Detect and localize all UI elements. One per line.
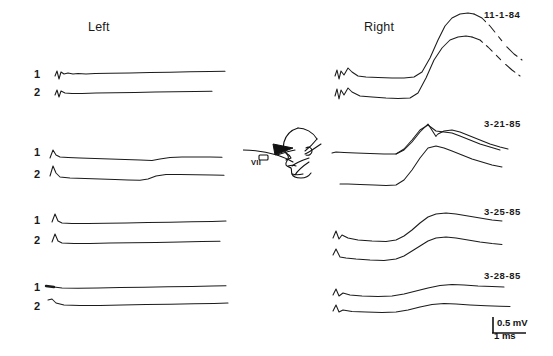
date-label-3: 3-25-85 — [484, 206, 521, 217]
trace-left-g4-t2 — [48, 299, 228, 306]
column-header-left: Left — [88, 20, 110, 34]
trace-left-g1-t1 — [55, 71, 225, 79]
trace-right-g3-t1 — [333, 213, 502, 242]
facial-nerve-label: VII — [251, 158, 261, 167]
trace-left-g4-t1 — [46, 286, 54, 287]
trace-label-left-g2-t2: 2 — [28, 168, 40, 180]
trace-right-g4-t1 — [333, 285, 504, 297]
trace-right-g1-t2 — [335, 36, 472, 99]
trace-left-g3-t1 — [52, 214, 226, 224]
electrode-lead-1 — [305, 139, 317, 151]
trace-label-left-g1-t1: 1 — [28, 68, 40, 80]
calibration-time-label: 1 ms — [494, 330, 516, 341]
trace-left-g1-t2 — [55, 90, 212, 97]
jaw-line — [292, 174, 303, 175]
column-header-right: Right — [364, 20, 394, 34]
trace-left-g2-t2 — [50, 166, 224, 180]
trace-label-left-g3-t2: 2 — [28, 234, 40, 246]
date-label-1: 11-1-84 — [484, 9, 520, 20]
date-label-4: 3-28-85 — [484, 270, 521, 281]
trace-right-g2-t1 — [332, 124, 508, 154]
trace-right-g4-t2 — [333, 304, 510, 313]
head-profile-diagram — [243, 122, 339, 190]
trace-label-left-g4-t1: 1 — [28, 281, 40, 293]
hairline — [298, 128, 317, 139]
trace-right-g2-t2 — [340, 146, 502, 186]
trace-right-g1-t1 — [335, 13, 474, 79]
electrode-lead-3 — [292, 158, 309, 166]
emg-figure: Left Right 1 2 1 2 1 2 1 2 11-1-84 3-21-… — [0, 0, 553, 356]
trace-label-left-g4-t2: 2 — [28, 300, 40, 312]
trace-left-g3-t2 — [52, 234, 220, 244]
trace-right-g1-t1-tail — [474, 14, 522, 60]
calibration-voltage-label: 0.5 mV — [497, 317, 528, 328]
trace-label-left-g2-t1: 1 — [28, 146, 40, 158]
trace-left-g2-t1 — [50, 150, 222, 161]
trace-label-left-g1-t2: 2 — [28, 86, 40, 98]
trace-right-g1-t2-tail — [472, 37, 520, 76]
trace-left-g4-t1-body — [54, 286, 226, 288]
trace-right-g2-t1-alt — [396, 125, 500, 154]
date-label-2: 3-21-85 — [484, 118, 521, 129]
electrode-lead-4 — [295, 162, 309, 175]
trace-label-left-g3-t1: 1 — [28, 214, 40, 226]
trace-right-g3-t2 — [333, 237, 502, 261]
